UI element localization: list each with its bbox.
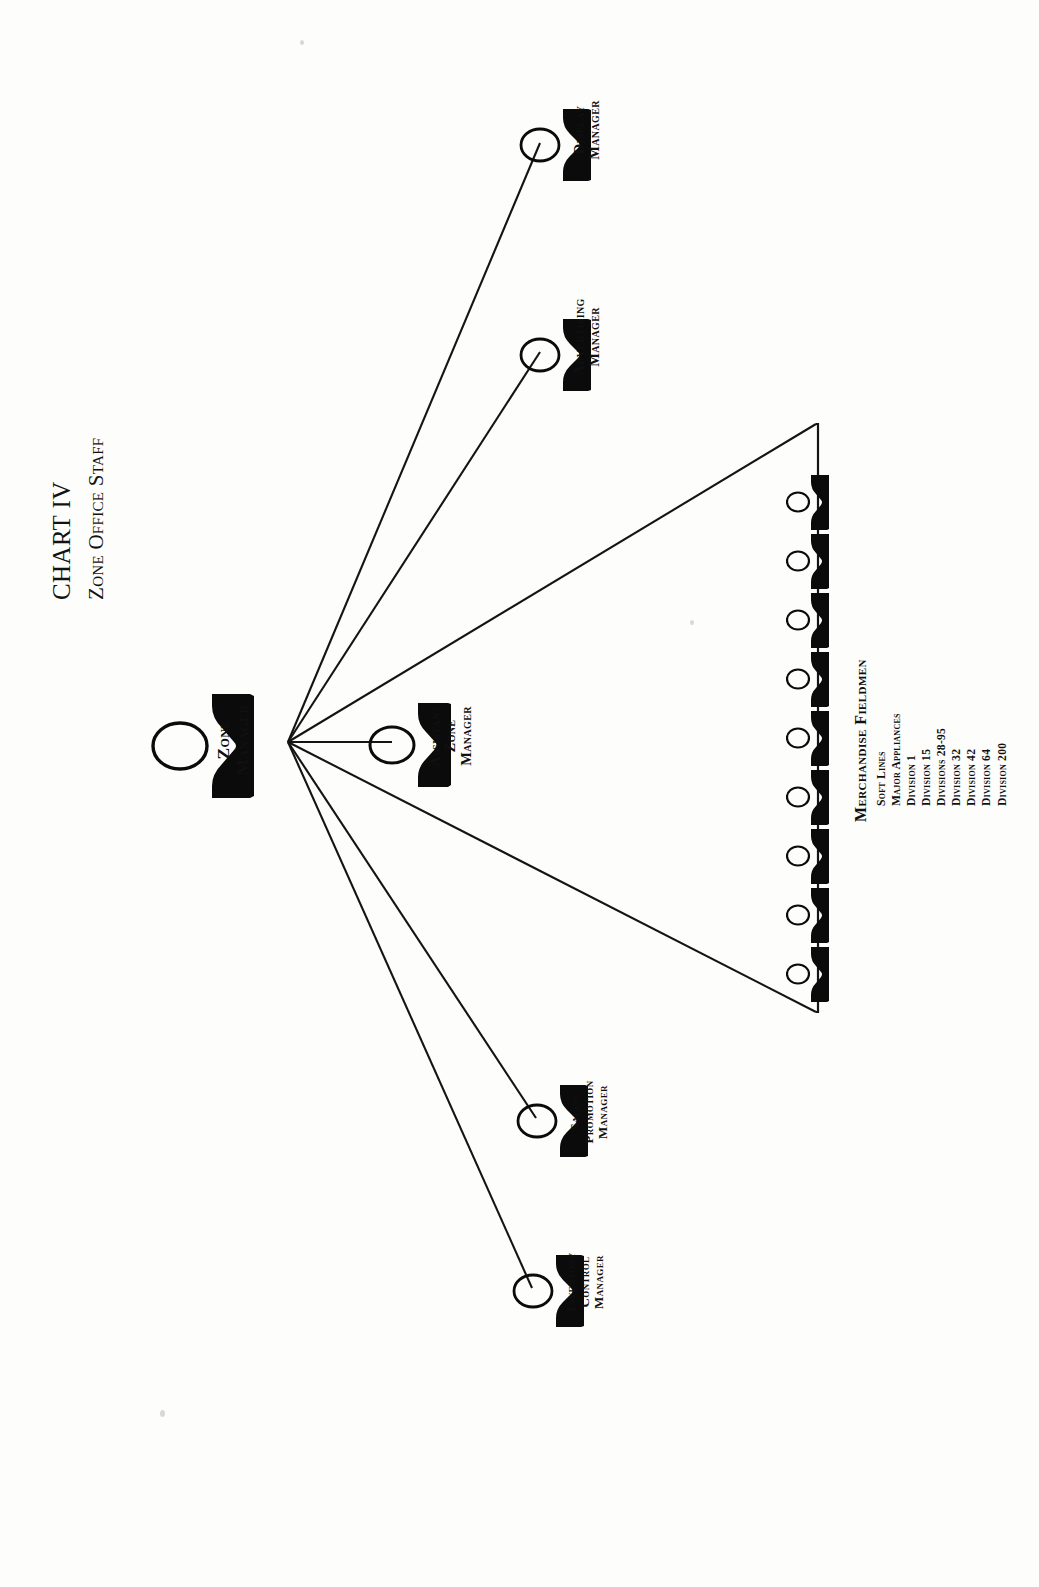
person-icon-fieldman-9	[786, 944, 832, 1004]
division-item-8: Division 64	[979, 713, 994, 806]
person-icon-fieldman-4	[786, 649, 832, 709]
node-label-advertising-manager: Advertising Manager	[572, 282, 603, 392]
edge-zone-to-advertising	[288, 352, 540, 742]
division-item-1: Soft Lines	[874, 713, 889, 806]
chart-page: CHART IV Zone Office Staff Zone Manager …	[0, 0, 1039, 1587]
person-icon-fieldman-1	[786, 472, 832, 532]
person-icon-fieldman-8	[786, 885, 832, 945]
edge-zone-to-display	[288, 143, 540, 742]
edge-zone-to-sales-promotion	[288, 742, 536, 1118]
inventory-control-manager-line-2: Control	[578, 1232, 592, 1332]
person-icon-fieldman-7	[786, 826, 832, 886]
division-item-2: Major Appliances	[889, 713, 904, 806]
node-label-display-manager: Display Manager	[572, 78, 603, 182]
node-label-sales-promotion-manager: Sales- Promotion Manager	[568, 1062, 609, 1162]
sales-promotion-manager-line-1: Sales-	[568, 1062, 582, 1162]
division-item-5: Divisions 28-95	[934, 713, 949, 806]
division-list: Soft Lines Major Appliances Division 1 D…	[874, 713, 1010, 806]
zone-manager-line-2: Manager	[233, 680, 252, 800]
person-icon-fieldman-6	[786, 767, 832, 827]
advertising-manager-line-1: Advertising	[572, 282, 587, 392]
inventory-control-manager-line-1: Inventory	[564, 1232, 578, 1332]
page-title: CHART IV	[48, 481, 76, 600]
edge-zone-to-fieldmen-top	[288, 424, 816, 742]
sales-promotion-manager-line-3: Manager	[596, 1062, 610, 1162]
person-icon-fieldman-3	[786, 590, 832, 650]
division-item-3: Division 1	[904, 713, 919, 806]
zone-manager-line-1: Zone	[214, 680, 233, 800]
node-label-zone-manager: Zone Manager	[214, 680, 251, 800]
assistant-zone-manager-line-1: Assistant	[428, 682, 443, 790]
node-label-inventory-control-manager: Inventory Control Manager	[564, 1232, 605, 1332]
inventory-control-manager-line-3: Manager	[592, 1232, 606, 1332]
display-manager-line-1: Display	[572, 78, 587, 182]
sales-promotion-manager-line-2: Promotion	[582, 1062, 596, 1162]
division-item-9: Division 200	[995, 713, 1010, 806]
advertising-manager-line-2: Manager	[587, 282, 602, 392]
division-item-6: Division 32	[949, 713, 964, 806]
person-icon-fieldman-2	[786, 531, 832, 591]
assistant-zone-manager-line-2: Zone	[443, 682, 458, 790]
scan-speck	[690, 620, 694, 625]
division-item-7: Division 42	[964, 713, 979, 806]
node-label-assistant-zone-manager: Assistant Zone Manager	[428, 682, 474, 790]
page-subtitle: Zone Office Staff	[84, 438, 109, 600]
assistant-zone-manager-line-3: Manager	[459, 682, 474, 790]
merchandise-fieldmen-label: Merchandise Fieldmen	[852, 659, 870, 822]
display-manager-line-2: Manager	[587, 78, 602, 182]
division-item-4: Division 15	[919, 713, 934, 806]
person-icon-fieldman-5	[786, 708, 832, 768]
scan-speck	[300, 40, 304, 45]
scan-speck	[160, 1410, 165, 1417]
edge-zone-to-inventory-control	[288, 742, 532, 1288]
